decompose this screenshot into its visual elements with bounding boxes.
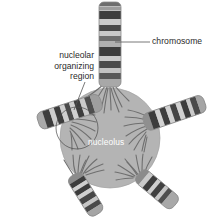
label-chromosome: chromosome <box>152 36 202 47</box>
diagram-canvas <box>0 0 210 220</box>
chromosome-right-bands <box>139 92 210 134</box>
label-nor-line-2: organizing <box>22 61 94 72</box>
label-nor-line-1: nucleolar <box>22 50 94 61</box>
label-nucleolus: nucleolus <box>88 137 124 148</box>
label-nor-line-3: region <box>22 71 94 82</box>
chromosome-top-bands <box>97 0 123 90</box>
label-nucleolar-organizing-region: nucleolar organizing region <box>22 50 94 82</box>
nucleolus-diagram-figure: chromosome nucleolar organizing region n… <box>0 0 210 220</box>
